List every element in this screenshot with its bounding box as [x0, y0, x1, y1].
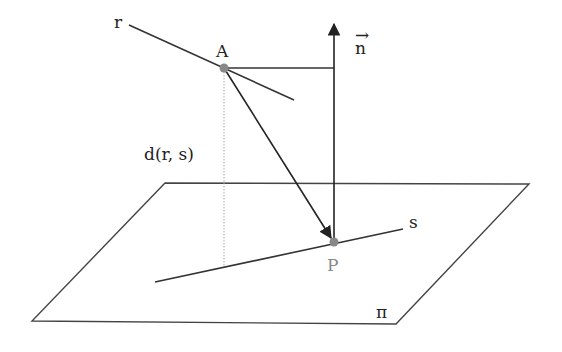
point-P [330, 238, 339, 247]
line-r [129, 25, 294, 100]
line-s [155, 229, 403, 282]
vector-AP [224, 68, 331, 238]
label-pi: π [376, 302, 387, 322]
plane-pi [32, 183, 529, 324]
label-n-arrow: → [355, 25, 369, 45]
label-A: A [215, 41, 229, 61]
skew-lines-distance-diagram: r A n → d(r, s) s P π [0, 0, 562, 352]
label-r: r [114, 12, 123, 32]
label-distance: d(r, s) [144, 144, 194, 164]
point-A [220, 64, 229, 73]
label-s: s [409, 212, 418, 232]
label-P: P [327, 255, 338, 275]
